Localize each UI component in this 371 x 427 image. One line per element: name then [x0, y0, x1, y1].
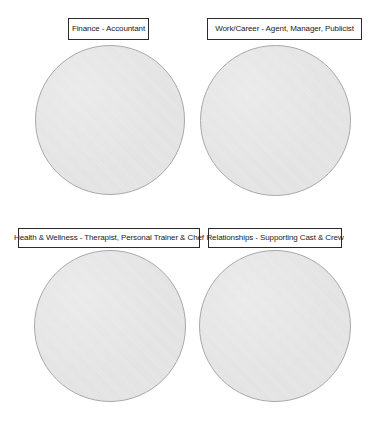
finance-circle [35, 45, 185, 195]
finance-label-text: Finance - Accountant [72, 25, 145, 33]
relationships-circle [199, 250, 351, 402]
health-wellness-label: Health & Wellness - Therapist, Personal … [18, 228, 200, 248]
health-wellness-label-text: Health & Wellness - Therapist, Personal … [14, 234, 204, 242]
work-career-label: Work/Career - Agent, Manager, Publicist [207, 18, 362, 40]
work-career-label-text: Work/Career - Agent, Manager, Publicist [215, 25, 354, 33]
health-wellness-circle [34, 250, 186, 402]
work-career-circle [200, 45, 351, 196]
finance-label: Finance - Accountant [68, 18, 149, 40]
relationships-label: Relationships - Supporting Cast & Crew [208, 228, 342, 248]
relationships-label-text: Relationships - Supporting Cast & Crew [206, 234, 343, 242]
